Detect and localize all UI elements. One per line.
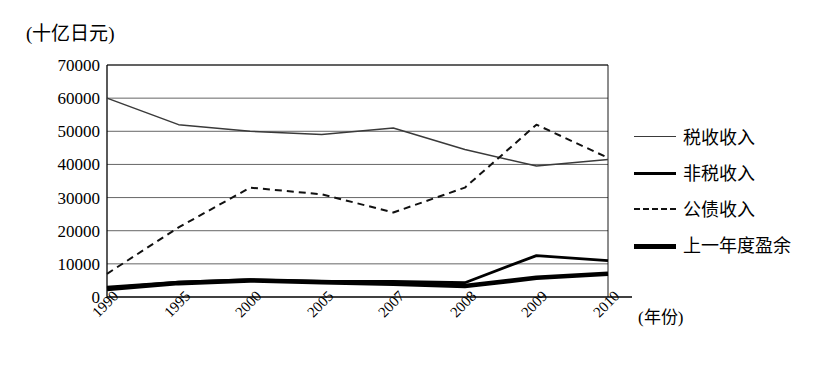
y-axis-tick-labels: 700006000050000400003000020000100000 — [8, 0, 100, 376]
legend-swatch-icon-2 — [634, 202, 676, 214]
legend-item-0: 税收收入 — [634, 118, 834, 154]
legend-label-1: 非税收入 — [683, 159, 755, 185]
legend-item-3: 上一年度盈余 — [634, 226, 834, 262]
y-axis-tick-70000: 70000 — [12, 57, 100, 74]
legend-item-1: 非税收入 — [634, 154, 834, 190]
y-axis-tick-40000: 40000 — [12, 156, 100, 173]
series-lines — [107, 98, 608, 289]
plot-frame — [107, 65, 632, 297]
line-chart: (十亿日元) 700006000050000400003000020000100… — [0, 0, 836, 376]
legend-item-2: 公债收入 — [634, 190, 834, 226]
x-axis-label: (年份) — [638, 303, 683, 328]
legend-label-0: 税收收入 — [683, 123, 755, 149]
legend-swatch-icon-3 — [634, 238, 676, 250]
y-axis-tick-10000: 10000 — [12, 255, 100, 272]
y-axis-tick-30000: 30000 — [12, 189, 100, 206]
legend: 税收收入非税收入公债收入上一年度盈余 — [634, 118, 834, 262]
legend-label-3: 上一年度盈余 — [683, 231, 791, 257]
y-axis-tick-60000: 60000 — [12, 90, 100, 107]
legend-label-2: 公债收入 — [683, 195, 755, 221]
y-axis-tick-50000: 50000 — [12, 123, 100, 140]
gridlines — [107, 65, 608, 264]
y-axis-tick-20000: 20000 — [12, 222, 100, 239]
series-line-0 — [107, 98, 608, 166]
legend-swatch-icon-0 — [634, 130, 676, 142]
series-line-2 — [107, 125, 608, 274]
y-axis-tick-0: 0 — [12, 289, 100, 306]
legend-swatch-icon-1 — [634, 166, 676, 178]
